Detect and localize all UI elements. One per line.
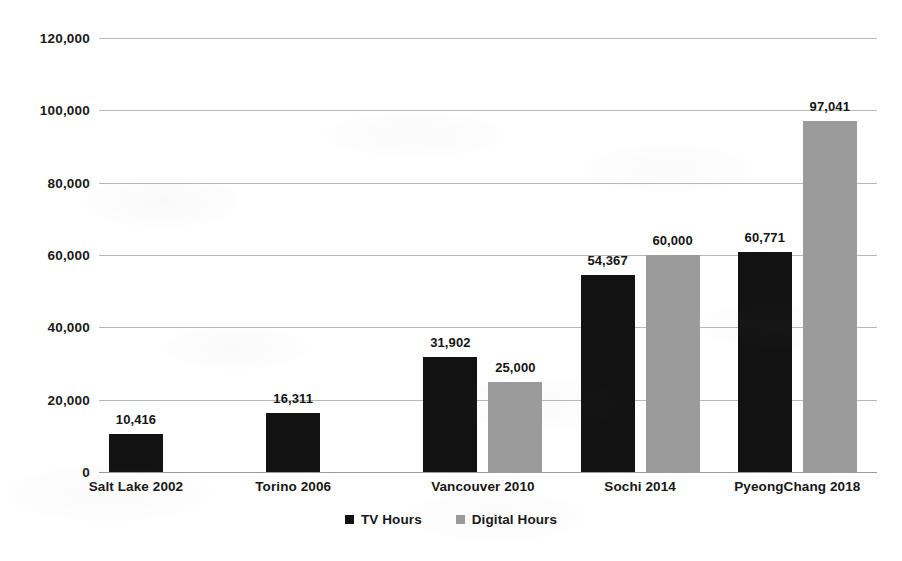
bar-value-label: 10,416 <box>116 412 156 427</box>
gridline: 100,000 <box>99 110 877 111</box>
bar-tv-hours <box>266 413 320 472</box>
x-axis-category-label: Salt Lake 2002 <box>89 479 183 494</box>
bar-value-label: 54,367 <box>587 253 627 268</box>
legend-label-digital-hours: Digital Hours <box>472 512 557 527</box>
x-axis-category-label: PyeongChang 2018 <box>734 479 860 494</box>
bar-value-label: 31,902 <box>430 335 470 350</box>
bar-tv-hours <box>109 434 163 472</box>
y-axis-tick-label: 0 <box>82 465 90 480</box>
bar-digital-hours <box>646 255 700 472</box>
y-axis-tick-label: 120,000 <box>40 31 90 46</box>
bar-chart: 020,00040,00060,00080,000100,000120,0001… <box>0 0 902 561</box>
x-axis-category-label: Vancouver 2010 <box>431 479 534 494</box>
bar-value-label: 60,771 <box>745 230 785 245</box>
gridline: 120,000 <box>99 38 877 39</box>
plot-area: 020,00040,00060,00080,000100,000120,0001… <box>99 38 877 472</box>
legend-swatch-digital-hours-icon <box>456 515 465 524</box>
legend-label-tv-hours: TV Hours <box>361 512 422 527</box>
bar-digital-hours <box>803 121 857 472</box>
bar-value-label: 25,000 <box>495 360 535 375</box>
bar-tv-hours <box>581 275 635 472</box>
y-axis-tick-label: 20,000 <box>48 392 91 407</box>
legend-item-tv-hours: TV Hours <box>345 512 422 527</box>
bar-value-label: 60,000 <box>652 233 692 248</box>
chart-legend: TV Hours Digital Hours <box>0 512 902 527</box>
legend-swatch-tv-hours-icon <box>345 515 354 524</box>
gridline: 80,000 <box>99 183 877 184</box>
y-axis-tick-label: 100,000 <box>40 103 90 118</box>
y-axis-tick-label: 40,000 <box>48 320 91 335</box>
x-axis-category-label: Torino 2006 <box>255 479 331 494</box>
bar-value-label: 97,041 <box>810 99 850 114</box>
y-axis-tick-label: 80,000 <box>48 175 91 190</box>
bar-tv-hours <box>738 252 792 472</box>
legend-item-digital-hours: Digital Hours <box>456 512 557 527</box>
gridline: 0 <box>99 472 877 473</box>
y-axis-tick-label: 60,000 <box>48 248 91 263</box>
bar-digital-hours <box>488 382 542 472</box>
x-axis-category-label: Sochi 2014 <box>604 479 676 494</box>
bar-tv-hours <box>423 357 477 472</box>
bar-value-label: 16,311 <box>273 391 313 406</box>
